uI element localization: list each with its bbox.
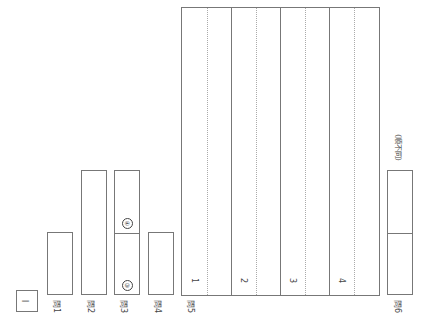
q6-divider [388,233,412,234]
q3-sub-4: ④ [122,218,133,229]
q3-sub-3: ③ [122,280,133,291]
q5-column-line [329,8,330,295]
answer-box-q3[interactable]: ④ ③ [114,170,140,295]
q5-item-4: 4 [337,278,346,283]
q5-item-1: 1 [190,278,199,283]
q5-dotted-line [354,8,355,295]
q5-column-line [231,8,232,295]
section-marker: I [16,290,38,312]
answer-box-q1[interactable] [47,232,73,295]
q4-label: 問4 [153,300,164,313]
q5-column-line [280,8,281,295]
q6-label: 問6 [393,300,404,313]
q6-note: （順不同） [394,130,404,165]
answer-box-q5[interactable]: 1 2 3 4 [181,7,380,296]
q3-divider [115,233,139,234]
answer-box-q4[interactable] [148,232,174,295]
answer-box-q2[interactable] [81,170,107,295]
q2-label: 問2 [86,300,97,313]
q5-item-3: 3 [288,278,297,283]
section-label: I [20,300,30,303]
q5-label: 問5 [186,300,197,313]
q5-dotted-line [305,8,306,295]
q5-dotted-line [207,8,208,295]
answer-box-q6[interactable] [387,170,413,295]
q1-label: 問1 [52,300,63,313]
q5-dotted-line [256,8,257,295]
q5-item-2: 2 [239,278,248,283]
q3-label: 問3 [119,300,130,313]
